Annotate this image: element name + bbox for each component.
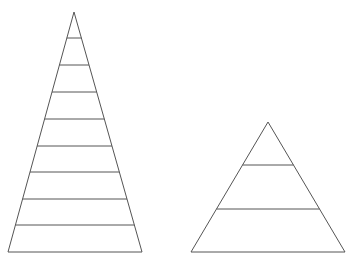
tall-pyramid (8, 12, 142, 252)
pyramid-diagram (0, 0, 346, 266)
pyramid-outline (191, 122, 345, 252)
short-pyramid (191, 122, 345, 252)
pyramid-outline (8, 12, 142, 252)
